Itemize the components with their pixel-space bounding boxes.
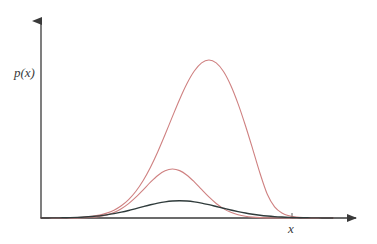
density-plot-figure: p(x) x (0, 0, 377, 244)
density-curves-group (41, 60, 333, 218)
plot-canvas (0, 0, 377, 244)
x-axis-label: x (288, 222, 294, 235)
y-axis-label: p(x) (14, 66, 35, 79)
density-curve-narrow-density (41, 60, 333, 218)
density-curve-tall-density (41, 169, 333, 218)
axes-group (41, 21, 356, 219)
